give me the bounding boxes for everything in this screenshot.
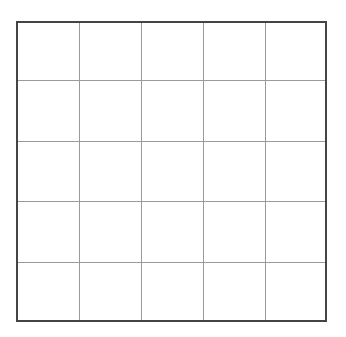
grid-hline (18, 80, 325, 81)
grid-vline (203, 23, 204, 320)
grid-vline (265, 23, 266, 320)
grid-hline (18, 201, 325, 202)
grid-board (16, 21, 327, 322)
grid-hline (18, 141, 325, 142)
grid-vline (79, 23, 80, 320)
grid-hline (18, 262, 325, 263)
grid-vline (141, 23, 142, 320)
